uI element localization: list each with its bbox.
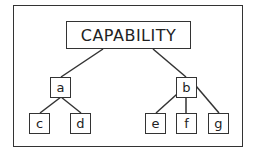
edge-capability-b	[153, 49, 186, 77]
node-c: c	[29, 113, 50, 134]
edge-a-d	[61, 97, 81, 113]
node-label: g	[214, 116, 222, 131]
edge-a-c	[40, 97, 61, 113]
node-label: c	[36, 116, 43, 131]
edge-b-g	[196, 86, 219, 113]
node-label: e	[152, 116, 160, 131]
node-g: g	[208, 113, 229, 134]
node-label: a	[57, 80, 65, 95]
node-label: CAPABILITY	[81, 26, 177, 45]
node-label: d	[76, 116, 84, 131]
node-label: f	[184, 116, 189, 131]
node-capability: CAPABILITY	[66, 21, 191, 49]
node-e: e	[145, 113, 166, 134]
node-d: d	[70, 113, 91, 134]
node-b: b	[176, 77, 197, 98]
node-label: b	[182, 80, 190, 95]
edge-capability-a	[61, 49, 103, 77]
node-f: f	[176, 113, 197, 134]
node-a: a	[50, 77, 71, 98]
